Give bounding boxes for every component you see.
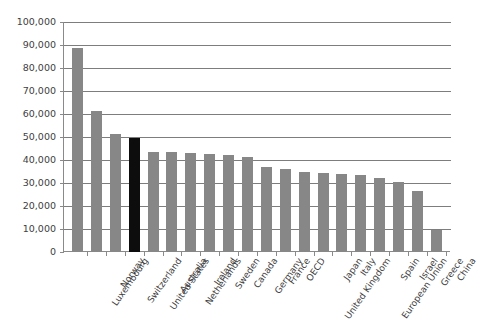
- bar: [185, 153, 196, 252]
- y-tick-label: 90,000: [0, 40, 56, 50]
- plot-area: [63, 22, 450, 252]
- y-tick-mark: [60, 252, 64, 253]
- bar: [166, 152, 177, 252]
- bar: [72, 48, 83, 252]
- bar: [355, 175, 366, 252]
- bar: [393, 182, 404, 252]
- bar: [299, 172, 310, 253]
- y-tick-label: 0: [0, 247, 56, 257]
- y-tick-label: 40,000: [0, 155, 56, 165]
- x-axis-labels: LuxembourgNorwaySwitzerlandUnited States…: [63, 256, 463, 326]
- y-tick-label: 10,000: [0, 224, 56, 234]
- bar: [110, 134, 121, 252]
- y-tick-label: 30,000: [0, 178, 56, 188]
- bar: [374, 178, 385, 252]
- y-tick-label: 50,000: [0, 132, 56, 142]
- y-tick-label: 80,000: [0, 63, 56, 73]
- y-tick-label: 100,000: [0, 17, 56, 27]
- bar: [261, 167, 272, 252]
- bar: [129, 138, 140, 252]
- x-tick-label: Spain: [398, 256, 421, 282]
- bars-group: [64, 22, 451, 252]
- bar: [412, 191, 423, 252]
- y-axis: 100,00090,00080,00070,00060,00050,00040,…: [0, 22, 60, 252]
- bar: [242, 157, 253, 252]
- bar: [318, 173, 329, 252]
- y-tick-label: 70,000: [0, 86, 56, 96]
- bar: [431, 230, 442, 252]
- bar: [91, 111, 102, 252]
- bar: [336, 174, 347, 252]
- bar: [223, 155, 234, 252]
- bar: [280, 169, 291, 252]
- bar: [148, 152, 159, 252]
- bar: [204, 154, 215, 252]
- y-tick-label: 20,000: [0, 201, 56, 211]
- y-tick-label: 60,000: [0, 109, 56, 119]
